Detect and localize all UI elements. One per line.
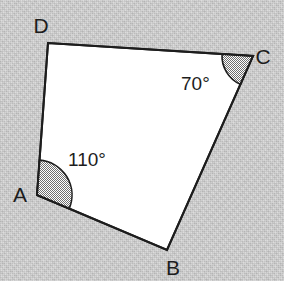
figure-canvas: A B C D 110° 70°: [0, 0, 284, 281]
vertex-label-C: C: [255, 45, 270, 68]
vertex-label-B: B: [166, 256, 180, 279]
vertex-label-A: A: [13, 183, 27, 206]
geometry-diagram: A B C D 110° 70°: [0, 0, 284, 281]
vertex-label-D: D: [33, 14, 48, 37]
angle-measure-label-C: 70°: [181, 73, 210, 94]
angle-measure-label-A: 110°: [68, 149, 106, 170]
quadrilateral-ABCD: [37, 43, 253, 250]
